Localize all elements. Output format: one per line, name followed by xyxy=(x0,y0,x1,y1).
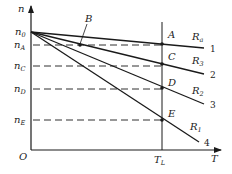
resistance-label-R1: R1 xyxy=(189,121,202,134)
label-C: C xyxy=(168,51,176,62)
line-number-3: 3 xyxy=(210,100,216,110)
x-tick-TL: TL xyxy=(154,154,165,167)
y-tick-n0: n0 xyxy=(15,26,26,39)
line-number-4: 4 xyxy=(204,138,210,148)
y-axis-label: n xyxy=(18,3,24,14)
line-number-1: 1 xyxy=(210,44,216,54)
label-A: A xyxy=(167,29,175,40)
point-A xyxy=(160,42,164,46)
label-E: E xyxy=(167,108,176,119)
label-D: D xyxy=(167,77,176,88)
point-C xyxy=(160,62,164,66)
x-axis-label: T xyxy=(211,153,219,164)
line-number-2: 2 xyxy=(210,70,216,80)
point-D xyxy=(160,86,164,90)
motor-characteristic-diagram: n T O n0 nA nC nD nE TL A C D E B Ra R3 … xyxy=(0,0,232,174)
resistance-label-R2: R2 xyxy=(191,85,204,98)
point-E xyxy=(160,118,164,122)
label-B: B xyxy=(84,13,92,24)
y-tick-nE: nE xyxy=(14,114,25,127)
y-tick-nD: nD xyxy=(14,83,26,96)
leader-B xyxy=(80,24,87,44)
resistance-label-Ra: Ra xyxy=(191,31,204,44)
y-tick-nA: nA xyxy=(14,39,25,52)
resistance-label-R3: R3 xyxy=(191,55,204,68)
characteristic-line-1 xyxy=(31,32,204,48)
y-tick-nC: nC xyxy=(14,60,25,73)
origin-label: O xyxy=(19,151,27,162)
